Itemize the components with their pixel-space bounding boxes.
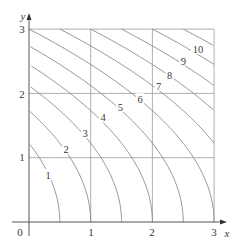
x-tick-2: 2 — [149, 226, 155, 238]
contour-label-1: 1 — [46, 170, 51, 181]
contour-level-3 — [31, 87, 122, 222]
x-tick-3: 3 — [211, 226, 217, 238]
contour-label-7: 7 — [156, 81, 161, 92]
contour-label-5: 5 — [118, 102, 123, 113]
contour-label-6: 6 — [137, 94, 142, 105]
contour-level-labels: 12345678910 — [44, 43, 205, 181]
contour-level-1 — [30, 145, 60, 222]
contour-plot: 0 1 2 3 x 1 2 3 y 12345678910 — [0, 0, 243, 244]
contour-label-8: 8 — [167, 70, 172, 81]
contour-level-4 — [31, 66, 152, 222]
contour-label-9: 9 — [181, 56, 186, 67]
x-tick-1: 1 — [88, 226, 94, 238]
y-axis-label: y — [20, 10, 26, 22]
y-axis-arrow-icon — [27, 13, 32, 20]
contour-label-10: 10 — [193, 44, 204, 55]
y-tick-1: 1 — [19, 151, 25, 163]
contour-label-4: 4 — [100, 112, 106, 123]
x-axis-arrow-icon — [220, 220, 227, 225]
origin-label: 0 — [17, 226, 23, 238]
contour-level-8 — [91, 29, 213, 109]
x-axis-label: x — [224, 227, 230, 239]
contour-level-5 — [31, 47, 184, 222]
y-tick-3: 3 — [19, 23, 25, 35]
contour-label-3: 3 — [83, 128, 88, 139]
y-tick-2: 2 — [19, 88, 25, 100]
contour-label-2: 2 — [63, 144, 68, 155]
contour-level-11 — [183, 29, 213, 45]
